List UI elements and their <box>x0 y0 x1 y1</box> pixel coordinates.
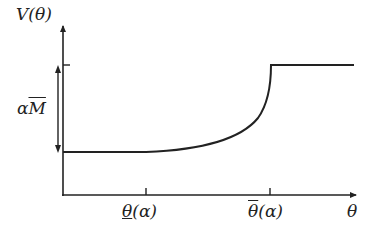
bracket-label-prefix: α <box>17 98 28 118</box>
theta-lower-suffix: (α) <box>132 201 157 221</box>
x-tick-low-label: θ(α) <box>122 203 157 220</box>
diagram-svg <box>0 0 372 234</box>
x-tick-high-label: θ(α) <box>248 203 283 220</box>
theta-upper-suffix: (α) <box>258 201 283 221</box>
bracket-label-m: M <box>28 98 45 118</box>
x-axis-label: θ <box>347 203 357 220</box>
theta-upper: θ <box>248 201 258 221</box>
bracket-label: αM <box>17 100 46 117</box>
value-curve <box>63 65 354 152</box>
y-axis-label: V(θ) <box>16 6 52 23</box>
bracket-arrow-head-bottom <box>55 145 61 153</box>
bracket-arrow-head-top <box>55 65 61 73</box>
theta-lower: θ <box>122 201 132 221</box>
diagram-canvas: V(θ) αM θ(α) θ(α) θ <box>0 0 372 234</box>
